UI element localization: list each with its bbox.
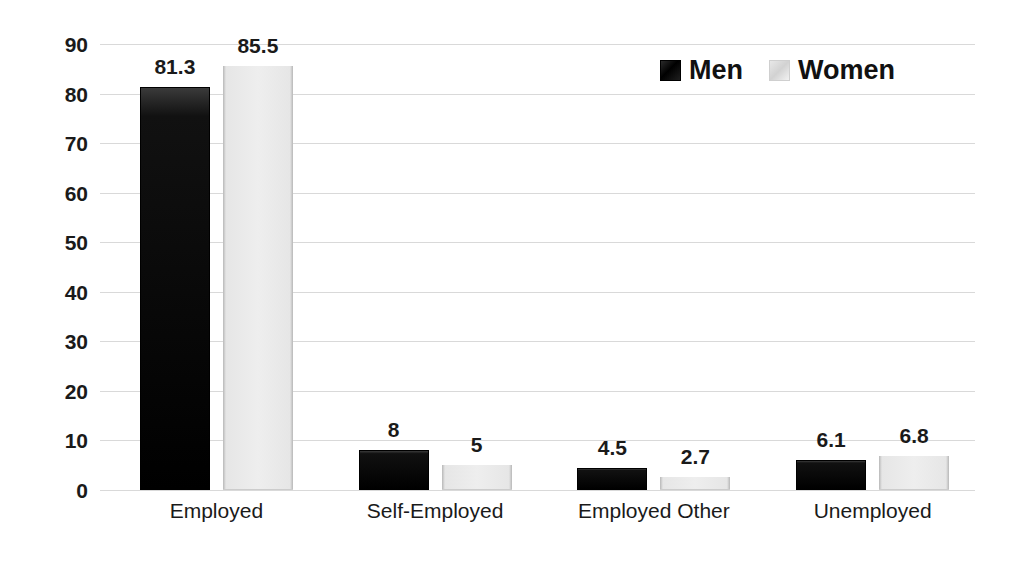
y-axis-tick-label: 60 xyxy=(30,182,88,203)
legend-item-women[interactable]: Women xyxy=(769,57,895,84)
y-axis-tick-label: 0 xyxy=(30,480,88,501)
x-axis: EmployedSelf-EmployedEmployed OtherUnemp… xyxy=(100,500,975,540)
x-axis-category-label: Unemployed xyxy=(814,500,932,521)
bar-group: 81.385.5 xyxy=(140,44,293,490)
x-axis-category-label: Employed Other xyxy=(578,500,730,521)
y-axis: 9080706050403020100 xyxy=(22,44,88,490)
bar-women xyxy=(442,465,512,490)
y-axis-tick-label: 90 xyxy=(30,34,88,55)
bar-men xyxy=(359,450,429,490)
x-axis-category-label: Self-Employed xyxy=(367,500,504,521)
bar-group: 6.16.8 xyxy=(796,44,949,490)
bar-women xyxy=(223,66,293,490)
bar-value-label: 5 xyxy=(422,434,532,455)
legend-item-label: Women xyxy=(798,57,895,84)
bar-men xyxy=(796,460,866,490)
bar-women xyxy=(879,456,949,490)
legend-swatch-icon xyxy=(660,60,681,81)
bar-group: 4.52.7 xyxy=(577,44,730,490)
bar-value-label: 85.5 xyxy=(203,35,313,56)
legend-item-men[interactable]: Men xyxy=(660,57,743,84)
y-axis-tick-label: 20 xyxy=(30,380,88,401)
y-axis-tick-label: 40 xyxy=(30,281,88,302)
y-axis-tick-label: 10 xyxy=(30,430,88,451)
y-axis-tick-label: 50 xyxy=(30,232,88,253)
bar-value-label: 81.3 xyxy=(120,56,230,77)
gridline xyxy=(100,490,975,491)
bar-men xyxy=(577,468,647,490)
legend-item-label: Men xyxy=(689,57,743,84)
y-axis-tick-label: 70 xyxy=(30,133,88,154)
plot-area: 81.385.5854.52.76.16.8 xyxy=(100,44,975,490)
bar-chart: 9080706050403020100 81.385.5854.52.76.16… xyxy=(0,0,1011,565)
x-axis-category-label: Employed xyxy=(170,500,263,521)
bar-women xyxy=(660,477,730,490)
y-axis-tick-label: 80 xyxy=(30,83,88,104)
bar-value-label: 2.7 xyxy=(640,446,750,467)
legend-swatch-icon xyxy=(769,60,790,81)
y-axis-tick-label: 30 xyxy=(30,331,88,352)
bar-value-label: 6.8 xyxy=(859,425,969,446)
chart-legend: MenWomen xyxy=(660,57,895,84)
bar-group: 85 xyxy=(359,44,512,490)
bar-men xyxy=(140,87,210,490)
